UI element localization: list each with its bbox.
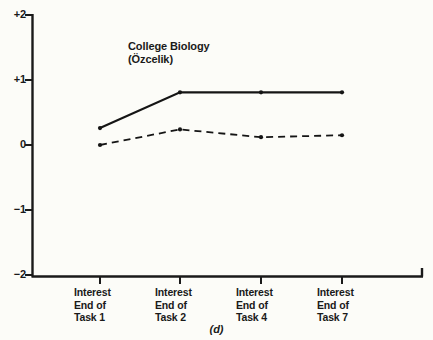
x-tick-line-2: End of [155,299,241,312]
x-tick-line-3: Task 1 [74,311,160,324]
y-tick-label-neg1: −1 [0,204,26,216]
x-tick-line-2: End of [74,299,160,312]
chart-title: College Biology (Özcelik) [128,40,210,66]
data-point-dashed-0 [98,143,102,147]
data-point-solid-0 [98,126,102,130]
figure-panel: +2 +1 0 −1 −2 Interest End of Task 1 Int… [0,0,433,340]
data-point-solid-2 [259,90,263,94]
y-tick-label-2: +2 [0,9,26,21]
series-line-solid [100,92,342,128]
x-tick-label-task-1: Interest End of Task 1 [74,286,160,324]
y-axis-ticks [25,15,32,275]
data-point-dashed-2 [259,135,263,139]
y-tick-label-0: 0 [0,139,26,151]
y-tick-label-neg2: −2 [0,269,26,281]
x-tick-line-3: Task 2 [155,311,241,324]
panel-caption: (d) [0,323,433,335]
chart-title-author: (Özcelik) [128,53,210,66]
x-tick-line-2: End of [236,299,322,312]
y-tick-label-1: +1 [0,74,26,86]
x-tick-line-2: End of [317,299,403,312]
x-tick-line-1: Interest [317,286,403,299]
data-series-layer [98,90,344,147]
data-point-dashed-1 [178,127,182,131]
x-tick-line-1: Interest [74,286,160,299]
x-tick-line-3: Task 4 [236,311,322,324]
x-tick-label-task-2: Interest End of Task 2 [155,286,241,324]
chart-title-main: College Biology [128,40,210,53]
data-point-solid-1 [178,90,182,94]
x-tick-label-task-7: Interest End of Task 7 [317,286,403,324]
data-point-dashed-3 [340,133,344,137]
x-tick-line-1: Interest [155,286,241,299]
series-line-dashed [100,129,342,145]
x-tick-label-task-4: Interest End of Task 4 [236,286,322,324]
x-tick-line-1: Interest [236,286,322,299]
data-point-solid-3 [340,90,344,94]
x-tick-line-3: Task 7 [317,311,403,324]
